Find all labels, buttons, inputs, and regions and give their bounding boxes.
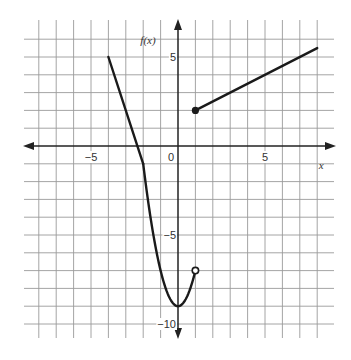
y-axis-top-arrow-icon	[174, 19, 182, 30]
function-graph: −5 0 5 5 −5 −10 f(x) x	[0, 0, 351, 360]
x-axis-right-arrow-icon	[325, 142, 336, 150]
closed-endpoint	[192, 107, 199, 114]
y-tick-label: −10	[157, 318, 176, 330]
y-tick-label: 5	[170, 51, 176, 63]
axes	[23, 19, 336, 339]
x-axis-title: x	[318, 159, 324, 171]
x-tick-label: 0	[168, 151, 174, 163]
y-tick-label: −5	[163, 229, 176, 241]
y-axis-title: f(x)	[140, 34, 156, 47]
x-tick-label: −5	[85, 151, 98, 163]
open-endpoint	[192, 267, 198, 273]
grid	[24, 20, 334, 338]
x-tick-label: 5	[262, 151, 268, 163]
x-axis-left-arrow-icon	[23, 142, 34, 150]
